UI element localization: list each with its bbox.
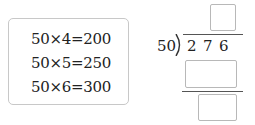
hint-line-3: 50×6=300 [31, 78, 111, 96]
dividend-digit-2: 7 [203, 37, 213, 55]
subtraction-line [182, 91, 243, 92]
division-bracket [175, 34, 183, 56]
quotient-answer-box[interactable] [210, 4, 236, 31]
product-answer-box[interactable] [185, 60, 237, 88]
division-overline [183, 34, 243, 35]
hint-line-2: 50×5=250 [31, 54, 111, 72]
hint-box: 50×4=200 50×5=250 50×6=300 [8, 18, 129, 105]
divisor: 50 [157, 37, 176, 55]
remainder-answer-box[interactable] [198, 94, 237, 121]
hint-line-1: 50×4=200 [31, 30, 111, 48]
dividend-digit-3: 6 [219, 37, 229, 55]
dividend-digit-1: 2 [187, 37, 197, 55]
